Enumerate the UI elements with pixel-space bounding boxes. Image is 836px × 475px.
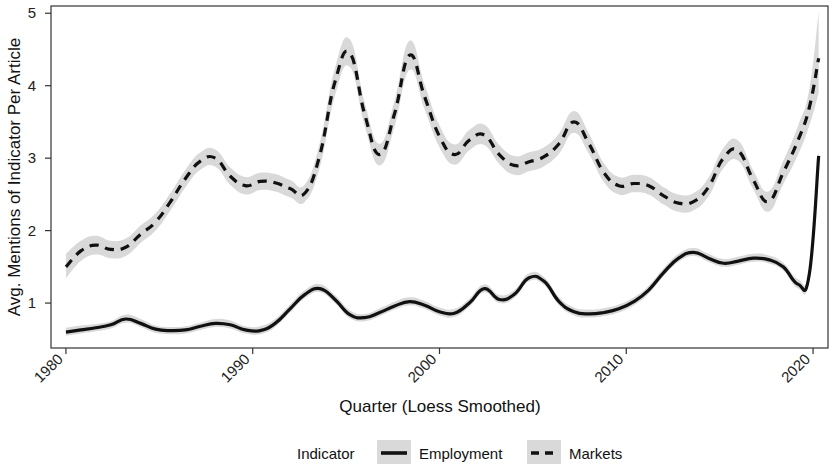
- line-chart: Avg. Mentions of Indicator Per Article 1…: [0, 0, 836, 475]
- x-axis-ticks: 19801990200020102020: [30, 348, 813, 386]
- y-axis-title: Avg. Mentions of Indicator Per Article: [5, 38, 24, 316]
- legend-title: Indicator: [297, 445, 355, 462]
- y-tick-label: 2: [28, 222, 36, 239]
- chart-container: Avg. Mentions of Indicator Per Article 1…: [0, 0, 836, 475]
- y-tick-label: 5: [28, 4, 36, 21]
- legend-label-markets: Markets: [569, 445, 622, 462]
- x-tick-label: 1980: [30, 350, 66, 386]
- y-axis-ticks: 12345: [28, 4, 51, 311]
- y-tick-label: 1: [28, 294, 36, 311]
- legend-label-employment: Employment: [419, 445, 503, 462]
- plot-series-group: [66, 12, 819, 336]
- line-markets: [66, 51, 819, 267]
- x-tick-label: 1990: [217, 350, 253, 386]
- y-tick-label: 4: [28, 77, 36, 94]
- x-axis-title: Quarter (Loess Smoothed): [339, 397, 540, 416]
- ribbon-employment: [66, 149, 819, 335]
- x-tick-label: 2020: [778, 350, 814, 386]
- x-tick-label: 2010: [591, 350, 627, 386]
- y-tick-label: 3: [28, 149, 36, 166]
- chart-legend: Indicator Employment Markets: [297, 440, 622, 464]
- x-tick-label: 2000: [404, 350, 440, 386]
